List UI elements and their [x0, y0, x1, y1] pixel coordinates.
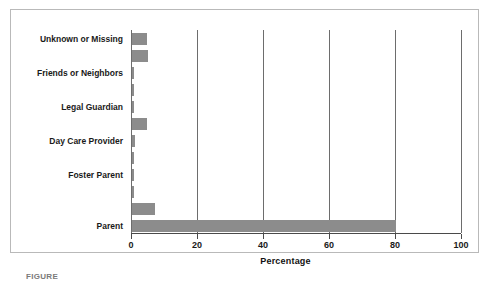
y-axis-label-friends-or-neighbors: Friends or Neighbors	[37, 68, 123, 78]
figure-caption: FIGURE	[26, 272, 58, 281]
bar[interactable]	[132, 135, 135, 147]
x-axis-line	[131, 233, 461, 234]
x-tick-label-20: 20	[192, 240, 202, 251]
x-tick-80	[395, 234, 396, 239]
x-axis-tick-labels: 020406080100	[0, 240, 491, 254]
bar[interactable]	[132, 186, 134, 198]
x-tick-label-80: 80	[390, 240, 400, 251]
x-tick-100	[461, 234, 462, 239]
plot-area	[131, 30, 461, 233]
x-tick-label-0: 0	[128, 240, 133, 251]
x-tick-20	[197, 234, 198, 239]
bar-fill	[132, 152, 134, 164]
bar[interactable]	[132, 33, 147, 45]
x-tick-60	[329, 234, 330, 239]
bar-fill	[132, 50, 148, 62]
y-axis-label-foster-parent: Foster Parent	[68, 170, 123, 180]
bar-fill	[132, 135, 135, 147]
x-tick-label-60: 60	[324, 240, 334, 251]
bar[interactable]	[132, 203, 155, 215]
bar-fill	[132, 220, 396, 232]
bar-fill	[132, 67, 134, 79]
x-tick-label-40: 40	[258, 240, 268, 251]
bar-fill	[132, 101, 134, 113]
bar[interactable]	[132, 67, 134, 79]
bar[interactable]	[132, 101, 134, 113]
bar[interactable]	[132, 50, 148, 62]
x-axis-title-text: Percentage	[260, 256, 311, 266]
bar-fill	[132, 169, 134, 181]
x-tick-label-100: 100	[453, 240, 468, 251]
bar[interactable]	[132, 84, 134, 96]
bar-fill	[132, 33, 147, 45]
y-axis-labels: Unknown or MissingFriends or NeighborsLe…	[12, 30, 129, 233]
gridline-60	[329, 30, 330, 233]
bar[interactable]	[132, 169, 134, 181]
x-axis-title: Percentage	[0, 256, 491, 266]
gridline-100	[461, 30, 462, 233]
gridline-20	[197, 30, 198, 233]
x-tick-40	[263, 234, 264, 239]
bar[interactable]	[132, 220, 396, 232]
y-axis-label-day-care-provider: Day Care Provider	[49, 136, 123, 146]
y-axis-label-legal-guardian: Legal Guardian	[61, 102, 123, 112]
bar-fill	[132, 203, 155, 215]
y-axis-label-parent: Parent	[97, 221, 123, 231]
bar[interactable]	[132, 152, 134, 164]
x-tick-0	[131, 234, 132, 239]
figure-container: Unknown or MissingFriends or NeighborsLe…	[0, 0, 491, 281]
bar-fill	[132, 186, 134, 198]
y-axis-label-unknown-or-missing: Unknown or Missing	[40, 34, 123, 44]
bar-fill	[132, 84, 134, 96]
gridline-80	[395, 30, 396, 233]
bar-fill	[132, 118, 147, 130]
bar[interactable]	[132, 118, 147, 130]
gridline-40	[263, 30, 264, 233]
